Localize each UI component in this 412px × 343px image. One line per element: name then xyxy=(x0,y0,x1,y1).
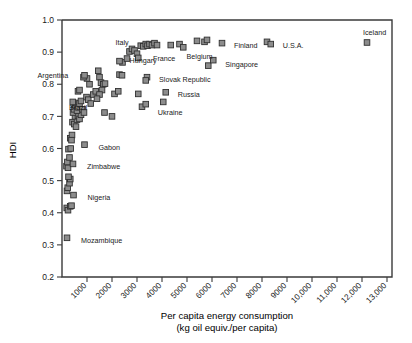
x-tick-label: 1000 xyxy=(69,281,89,301)
data-point-marker xyxy=(69,203,75,209)
data-point-marker xyxy=(77,87,83,93)
data-point-marker xyxy=(102,81,108,87)
data-point-marker xyxy=(119,72,125,78)
y-axis-title: HDI xyxy=(7,142,18,159)
y-tick-label: 0.6 xyxy=(42,144,54,154)
data-point-marker xyxy=(109,114,115,120)
x-tick-label: 3000 xyxy=(119,281,139,301)
data-point-marker xyxy=(154,42,160,48)
data-point-marker xyxy=(68,146,74,152)
data-points xyxy=(64,37,370,240)
data-point-label: Italy xyxy=(116,38,130,47)
x-tick-label: 10,000 xyxy=(289,281,313,305)
data-point-marker xyxy=(88,101,94,107)
data-point-marker xyxy=(69,137,75,143)
x-tick-label: 6000 xyxy=(194,281,214,301)
y-tick-label: 0.4 xyxy=(42,208,54,218)
x-tick-label: 7000 xyxy=(219,281,239,301)
data-point-label: Brazil xyxy=(69,103,87,112)
data-point-marker xyxy=(180,45,186,51)
data-point-label: Finland xyxy=(234,41,258,50)
data-point-marker xyxy=(205,63,211,69)
data-point-marker xyxy=(135,91,141,97)
data-point-label: Iceland xyxy=(363,28,386,37)
data-point-marker xyxy=(204,37,210,43)
data-point-marker xyxy=(163,89,169,95)
chart-container: 0.20.30.40.50.60.70.80.91.0 100020003000… xyxy=(0,0,412,343)
data-point-marker xyxy=(115,89,121,95)
data-point-marker xyxy=(268,41,274,47)
y-tick-label: 0.9 xyxy=(42,47,54,57)
y-tick-label: 0.2 xyxy=(42,272,54,282)
data-point-marker xyxy=(73,124,79,130)
x-axis-title-units: (kg oil equiv./per capita) xyxy=(176,322,277,333)
data-point-label: U.S.A. xyxy=(283,41,304,50)
x-tick-label: 8000 xyxy=(244,281,264,301)
y-axis: 0.20.30.40.50.60.70.80.91.0 xyxy=(42,15,62,282)
x-tick-label: 12,000 xyxy=(339,281,363,305)
data-point-marker xyxy=(82,72,88,78)
data-point-label: Singapore xyxy=(225,60,258,69)
data-point-label: Argentina xyxy=(38,71,69,80)
data-point-marker xyxy=(168,42,174,48)
data-point-marker xyxy=(194,38,200,44)
x-axis: 10002000300040005000600070008000900010,0… xyxy=(69,277,389,305)
y-tick-label: 0.8 xyxy=(42,79,54,89)
data-point-marker xyxy=(160,99,166,105)
data-point-marker xyxy=(219,40,225,46)
data-point-marker xyxy=(71,192,77,198)
data-point-label: Ukraine xyxy=(158,108,183,117)
data-point-label: Nigeria xyxy=(88,193,111,202)
x-tick-label: 2000 xyxy=(94,281,114,301)
data-point-label: Gabon xyxy=(99,143,121,152)
y-tick-label: 1.0 xyxy=(42,15,54,25)
data-point-marker xyxy=(143,78,149,84)
data-point-labels: MozambiqueNigeriaZimbabweGabonArgentinaB… xyxy=(38,28,387,245)
data-point-marker xyxy=(117,58,123,64)
x-tick-label: 5000 xyxy=(169,281,189,301)
data-point-marker xyxy=(97,74,103,80)
data-point-label: Russia xyxy=(178,90,200,99)
data-point-label: Zimbabwe xyxy=(87,162,120,171)
y-tick-label: 0.7 xyxy=(42,112,54,122)
y-tick-label: 0.5 xyxy=(42,176,54,186)
x-tick-label: 9000 xyxy=(269,281,289,301)
data-point-marker xyxy=(70,161,76,167)
data-point-marker xyxy=(143,101,149,107)
data-point-label: France xyxy=(153,54,175,63)
data-point-marker xyxy=(102,110,108,116)
x-tick-label: 4000 xyxy=(144,281,164,301)
data-point-label: Mozambique xyxy=(81,236,122,245)
hdi-vs-energy-scatter-chart: 0.20.30.40.50.60.70.80.91.0 100020003000… xyxy=(0,0,412,343)
y-tick-label: 0.3 xyxy=(42,240,54,250)
data-point-marker xyxy=(95,68,101,74)
data-point-label: Slovak Republic xyxy=(159,75,211,84)
x-tick-label: 11,000 xyxy=(315,281,339,305)
data-point-marker xyxy=(87,81,93,87)
data-point-marker xyxy=(67,155,73,161)
data-point-marker xyxy=(82,142,88,148)
x-axis-title: Per capita energy consumption xyxy=(161,310,293,321)
data-point-marker xyxy=(94,96,100,102)
data-point-marker xyxy=(66,174,72,180)
data-point-marker xyxy=(64,235,70,241)
data-point-label: Belgium xyxy=(187,52,213,61)
x-tick-label: 13,000 xyxy=(364,281,388,305)
data-point-marker xyxy=(364,40,370,46)
